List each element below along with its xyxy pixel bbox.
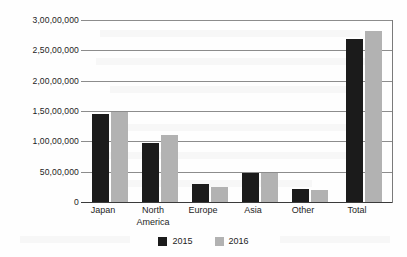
legend-swatch-2015	[158, 237, 167, 246]
bar-other-2016[interactable]	[311, 190, 328, 202]
x-axis-label-north-america: North America	[128, 205, 178, 228]
gridline-30000000	[88, 20, 392, 21]
chart-legend: 2015 2016	[0, 236, 407, 246]
bar-north-america-2016[interactable]	[161, 135, 178, 202]
bar-north-america-2015[interactable]	[142, 143, 159, 202]
y-tick-mark	[81, 50, 88, 51]
bar-japan-2015[interactable]	[92, 114, 109, 202]
y-axis-tick-label: 2,00,00,000	[33, 76, 80, 86]
y-axis-tick-label: 3,00,00,000	[33, 15, 80, 25]
bar-japan-2016[interactable]	[111, 112, 128, 202]
bar-other-2015[interactable]	[292, 189, 309, 202]
y-tick-mark	[81, 202, 88, 203]
y-axis-tick-label: 50,00,000	[40, 167, 79, 177]
x-axis-label-japan: Japan	[78, 205, 128, 217]
y-axis-label-group: 3,00,00,000 2,50,00,000 2,00,00,000 1,50…	[0, 0, 79, 257]
bar-chart-screenshot: 3,00,00,000 2,50,00,000 2,00,00,000 1,50…	[0, 0, 407, 257]
bar-asia-2015[interactable]	[242, 173, 259, 202]
legend-label-2016: 2016	[229, 236, 249, 246]
bar-total-2016[interactable]	[365, 31, 382, 202]
y-axis-tick-label: 1,50,00,000	[33, 106, 80, 116]
x-axis-label-other: Other	[278, 205, 328, 217]
x-axis-label-europe: Europe	[178, 205, 228, 217]
y-tick-mark	[81, 141, 88, 142]
y-axis-tick-label: 2,50,00,000	[33, 45, 80, 55]
y-tick-mark	[81, 81, 88, 82]
bar-asia-2016[interactable]	[261, 173, 278, 202]
legend-swatch-2016	[215, 237, 224, 246]
x-axis-label-total: Total	[332, 205, 382, 217]
y-tick-mark	[81, 111, 88, 112]
bar-europe-2015[interactable]	[192, 184, 209, 202]
bar-total-2015[interactable]	[346, 39, 363, 202]
x-axis-line	[88, 202, 392, 203]
y-axis-tick-label: 1,00,00,000	[33, 136, 80, 146]
plot-right-border	[392, 20, 393, 203]
y-tick-mark	[81, 172, 88, 173]
x-axis-label-asia: Asia	[228, 205, 278, 217]
legend-label-2015: 2015	[172, 236, 192, 246]
legend-item-2015[interactable]: 2015	[158, 236, 192, 246]
bar-europe-2016[interactable]	[211, 187, 228, 202]
plot-area	[88, 20, 392, 202]
y-tick-mark	[81, 20, 88, 21]
legend-item-2016[interactable]: 2016	[215, 236, 249, 246]
